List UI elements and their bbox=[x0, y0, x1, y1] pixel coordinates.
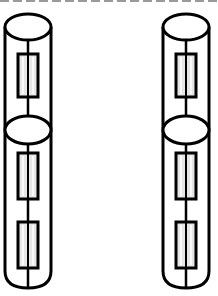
cylinder-top-cap bbox=[5, 14, 51, 40]
columns-group bbox=[5, 14, 209, 288]
cylinder-mid-cap bbox=[163, 116, 209, 144]
resistor bbox=[176, 222, 196, 268]
right-column bbox=[163, 14, 209, 288]
upper-cylinder-segment bbox=[5, 14, 51, 130]
resistor bbox=[18, 54, 38, 97]
lower-cylinder-segment bbox=[163, 116, 209, 288]
diagram-canvas bbox=[0, 0, 218, 296]
cylinder-resistor-diagram bbox=[0, 0, 218, 296]
resistor bbox=[176, 54, 196, 97]
upper-cylinder-segment bbox=[163, 14, 209, 130]
cylinder-top-cap bbox=[163, 14, 209, 40]
resistor bbox=[18, 222, 38, 268]
lower-cylinder-segment bbox=[5, 116, 51, 288]
left-column bbox=[5, 14, 51, 288]
resistor bbox=[176, 153, 196, 199]
resistor bbox=[18, 153, 38, 199]
cylinder-mid-cap bbox=[5, 116, 51, 144]
